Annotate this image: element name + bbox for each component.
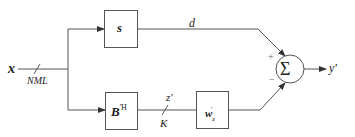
lower-bus-width-label: K (160, 118, 167, 129)
d-signal-label: d (189, 17, 195, 29)
w-output-line (228, 83, 285, 110)
sigma-symbol: Σ (280, 60, 290, 78)
plus-sign: + (268, 52, 274, 62)
d-signal-line (137, 29, 285, 56)
block-s-label: s (117, 21, 122, 34)
diagram-canvas (0, 0, 355, 137)
output-label: y' (329, 62, 337, 74)
block-b-label: B'H (111, 103, 127, 119)
input-bus-width-label: NML (27, 76, 48, 86)
minus-sign: − (269, 75, 275, 85)
z-signal-label: z' (166, 92, 173, 103)
input-label: x (8, 62, 15, 76)
block-w-label: wz' (205, 104, 212, 123)
